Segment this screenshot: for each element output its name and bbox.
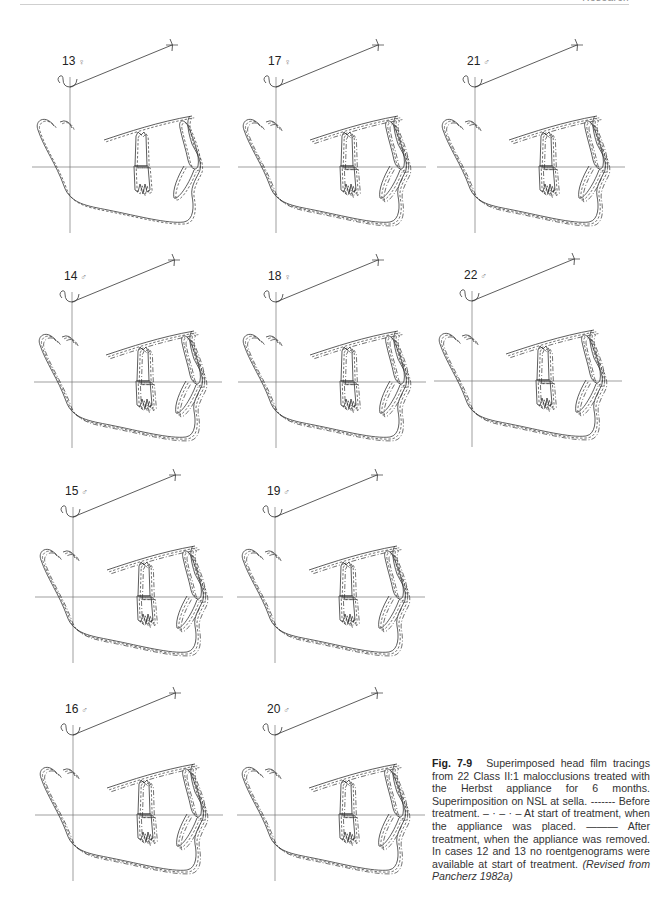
case-label-15: 15♂ bbox=[65, 484, 88, 498]
tracing-panel-16 bbox=[35, 687, 223, 881]
nsl-line bbox=[73, 693, 175, 735]
lower-incisor bbox=[384, 385, 404, 417]
mandible-outline bbox=[242, 546, 405, 652]
sella-icon bbox=[58, 76, 77, 87]
tracing-before bbox=[42, 548, 205, 654]
upper-molar bbox=[539, 348, 551, 382]
upper-molar bbox=[342, 564, 354, 598]
lower-incisor bbox=[174, 166, 194, 198]
mandible-outline bbox=[42, 766, 205, 872]
upper-molar bbox=[344, 566, 356, 600]
upper-molar bbox=[544, 136, 556, 170]
case-number: 13 bbox=[62, 54, 75, 68]
upper-molar bbox=[341, 347, 353, 381]
sella-icon bbox=[463, 76, 482, 87]
sella-icon bbox=[460, 290, 479, 301]
male-symbol-icon: ♂ bbox=[81, 705, 88, 715]
tracing-panel-19 bbox=[237, 469, 425, 663]
upper-molar bbox=[345, 136, 357, 170]
coronoid-process bbox=[467, 123, 479, 130]
tracing-panel-13 bbox=[32, 39, 220, 233]
lower-incisor bbox=[383, 600, 403, 632]
tracing-after bbox=[40, 764, 203, 870]
lower-molar bbox=[344, 385, 360, 413]
upper-molar bbox=[142, 566, 154, 600]
figure-caption: Fig. 7-9Superimposed head film tracings … bbox=[432, 757, 650, 883]
lower-incisor bbox=[579, 166, 599, 198]
nsl-line bbox=[72, 260, 174, 302]
lower-incisor bbox=[383, 818, 403, 850]
case-label-13: 13♀ bbox=[62, 54, 85, 68]
mandible-outline bbox=[442, 116, 605, 222]
female-symbol-icon: ♀ bbox=[78, 57, 85, 67]
sella-icon bbox=[264, 76, 283, 87]
mandible-outline bbox=[242, 764, 405, 870]
coronoid-process bbox=[65, 771, 77, 778]
upper-molar bbox=[340, 780, 352, 814]
sella-icon bbox=[60, 291, 79, 302]
lower-molar bbox=[141, 818, 157, 846]
tracing-before bbox=[41, 333, 204, 439]
tracing-after bbox=[439, 330, 602, 436]
case-number: 17 bbox=[268, 54, 281, 68]
case-number: 15 bbox=[65, 484, 78, 498]
tracing-after bbox=[40, 546, 203, 652]
maxillary-plane bbox=[104, 116, 192, 140]
tracing-before bbox=[441, 332, 604, 438]
tracing-panel-15 bbox=[35, 469, 223, 663]
male-symbol-icon: ♂ bbox=[283, 487, 290, 497]
mandible-outline bbox=[42, 548, 205, 654]
coronoid-process bbox=[65, 553, 77, 560]
lower-incisor bbox=[384, 170, 404, 202]
upper-molar bbox=[139, 349, 151, 383]
tracing-before bbox=[245, 118, 408, 224]
legend-start-symbol: – · – · – bbox=[483, 807, 521, 819]
case-label-16: 16♂ bbox=[65, 702, 88, 716]
case-number: 16 bbox=[65, 702, 78, 716]
lower-incisor bbox=[379, 814, 399, 846]
case-label-22: 22♂ bbox=[464, 268, 487, 282]
mandible-outline bbox=[39, 331, 202, 437]
tracing-panel-20 bbox=[237, 687, 425, 881]
lower-molar bbox=[543, 170, 559, 198]
lower-molar bbox=[141, 600, 157, 628]
lower-incisor bbox=[181, 818, 201, 850]
case-number: 21 bbox=[467, 54, 480, 68]
lower-molar bbox=[343, 600, 359, 628]
tracing-after bbox=[242, 764, 405, 870]
sella-icon bbox=[263, 506, 282, 517]
case-label-20: 20♂ bbox=[267, 702, 290, 716]
tracing-after bbox=[37, 116, 200, 222]
sella-icon bbox=[264, 291, 283, 302]
tracing-after bbox=[442, 116, 605, 222]
coronoid-process bbox=[64, 338, 76, 345]
upper-molar bbox=[142, 784, 154, 818]
lower-incisor bbox=[177, 596, 197, 628]
case-number: 19 bbox=[267, 484, 280, 498]
mandible-outline bbox=[244, 548, 407, 654]
male-symbol-icon: ♂ bbox=[283, 705, 290, 715]
tracing-after bbox=[39, 331, 202, 437]
nsl-line bbox=[276, 45, 378, 87]
coronoid-process bbox=[267, 553, 279, 560]
nsl-line bbox=[276, 260, 378, 302]
mandible-outline bbox=[41, 333, 204, 439]
male-symbol-icon: ♂ bbox=[80, 272, 87, 282]
upper-molar bbox=[140, 564, 152, 598]
lower-incisor bbox=[576, 380, 596, 412]
lower-incisor bbox=[177, 814, 197, 846]
lower-molar bbox=[140, 385, 156, 413]
lower-molar bbox=[344, 170, 360, 198]
upper-molar bbox=[343, 349, 355, 383]
case-number: 18 bbox=[268, 269, 281, 283]
tracing-before bbox=[42, 766, 205, 872]
upper-incisor bbox=[180, 121, 199, 169]
mandible-outline bbox=[40, 764, 203, 870]
mandible-outline bbox=[37, 116, 200, 222]
lower-molar bbox=[540, 384, 556, 412]
upper-molar bbox=[137, 134, 149, 168]
tracing-before bbox=[244, 548, 407, 654]
case-number: 22 bbox=[464, 268, 477, 282]
mandible-outline bbox=[444, 118, 607, 224]
nsl-line bbox=[73, 475, 175, 517]
